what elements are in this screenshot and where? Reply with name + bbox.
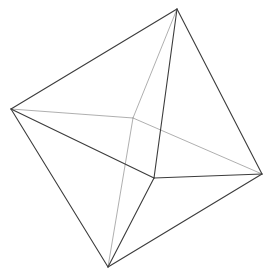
front-edges [11,9,262,267]
edge-back-right [133,118,262,174]
edge-back-bottom [108,118,133,267]
edge-bottom-right [108,174,262,267]
hidden-edges [11,9,262,267]
edge-front-right [154,174,262,178]
edge-top-left [11,9,177,109]
edge-top-front [154,9,177,178]
edge-top-right [177,9,262,174]
edge-left-back [11,109,133,118]
edge-top-back [133,9,177,118]
octahedron-diagram [0,0,266,274]
